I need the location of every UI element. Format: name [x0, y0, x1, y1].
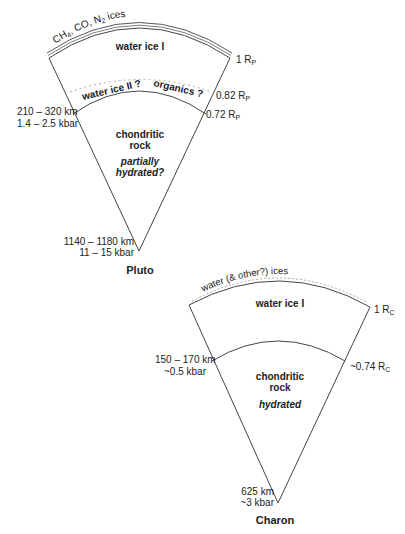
- pluto-radius-mid: 0.82 RP: [216, 90, 250, 102]
- pluto-radius-core: 0.72 RP: [206, 109, 240, 121]
- charon-boundary-depth: 150 – 170 km: [155, 354, 215, 366]
- pluto-organics-label: organics ?: [153, 77, 205, 99]
- charon-center-pressure: ~3 kbar: [200, 497, 274, 509]
- diagram-canvas: CH4, CO, N2 ices water (& other?) ices w…: [0, 0, 405, 534]
- pluto-core-note-2: hydrated?: [100, 167, 180, 179]
- charon-core-note: hydrated: [240, 399, 320, 411]
- pluto-surface-label: CH4, CO, N2 ices: [50, 8, 126, 46]
- pluto-center-pressure: 11 – 15 kbar: [50, 247, 134, 259]
- charon-radius-outer: 1 RC: [374, 304, 395, 316]
- pluto-boundary-pressure: 1.4 – 2.5 kbar: [17, 118, 78, 130]
- pluto-layer1-label: water ice I: [100, 41, 180, 53]
- charon-core-label-2: rock: [240, 382, 320, 394]
- pluto-radius-outer: 1 RP: [236, 54, 256, 66]
- pluto-core-label-2: rock: [100, 140, 180, 152]
- charon-boundary-pressure: ~0.5 kbar: [155, 366, 215, 378]
- charon-title: Charon: [240, 514, 310, 526]
- pluto-title: Pluto: [110, 264, 170, 276]
- charon-core-boundary: [212, 341, 345, 361]
- charon-radius-core: ~0.74 RC: [350, 361, 390, 373]
- pluto-water-ice-ii-label: water ice II ?: [80, 78, 142, 102]
- charon-layer1-label: water ice I: [240, 298, 320, 310]
- pluto-boundary-depth: 210 – 320 km: [17, 106, 78, 118]
- charon-surface-label: water (& other?) ices: [198, 265, 288, 294]
